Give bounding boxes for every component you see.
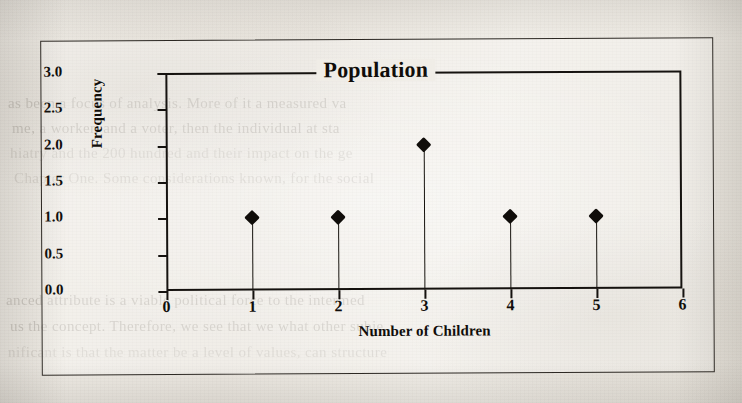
y-tick-label-text: 3.0 xyxy=(16,64,62,81)
x-tick-label: 6 xyxy=(678,295,686,313)
chart-title: Population xyxy=(40,57,711,82)
y-tick-label-text: 2.5 xyxy=(16,100,62,117)
x-tick-label: 5 xyxy=(592,296,600,314)
population-chart: Population Frequency 0.00.51.01.52.02.53… xyxy=(40,37,713,373)
y-tick-label-text: 0.0 xyxy=(17,282,63,299)
x-tick-label: 3 xyxy=(420,297,428,315)
x-tick-label: 2 xyxy=(334,297,342,315)
y-tick-label-text: 0.5 xyxy=(17,245,63,262)
y-tick-label-text: 2.0 xyxy=(17,136,63,153)
y-tick-mark xyxy=(157,73,166,75)
y-tick-mark xyxy=(158,109,167,111)
x-tick-label: 0 xyxy=(162,298,170,316)
y-tick-label-text: 1.0 xyxy=(17,209,63,226)
chart-title-text: Population xyxy=(316,59,435,82)
x-tick-label: 1 xyxy=(248,298,256,316)
y-tick-mark xyxy=(158,146,167,148)
x-tick-label: 4 xyxy=(506,296,514,314)
y-axis-title: Frequency xyxy=(88,78,105,148)
y-tick-mark xyxy=(158,182,167,184)
y-tick-mark xyxy=(158,218,167,220)
y-tick-label-text: 1.5 xyxy=(17,173,63,190)
x-axis-title: Number of Children xyxy=(167,322,683,342)
y-tick-mark xyxy=(158,255,167,257)
